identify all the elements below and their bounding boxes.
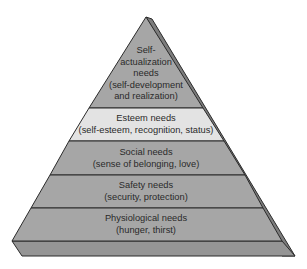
level-social-label: Social needs (sense of belonging, love) <box>66 147 226 170</box>
label-line: (self-development <box>96 80 196 92</box>
label-line: (sense of belonging, love) <box>66 159 226 171</box>
label-line: actualization <box>96 57 196 69</box>
label-line: Safety needs <box>66 180 226 192</box>
label-line: (self-esteem, recognition, status) <box>66 125 226 137</box>
label-line: Esteem needs <box>66 113 226 125</box>
label-line: (hunger, thirst) <box>66 225 226 237</box>
label-line: (security, protection) <box>66 192 226 204</box>
label-line: Self- <box>96 45 196 57</box>
pyramid-base-slab <box>12 241 295 256</box>
label-line: and realization) <box>96 91 196 103</box>
level-physiological-label: Physiological needs (hunger, thirst) <box>66 213 226 236</box>
label-line: needs <box>96 68 196 80</box>
level-safety-label: Safety needs (security, protection) <box>66 180 226 203</box>
level-esteem-label: Esteem needs (self-esteem, recognition, … <box>66 113 226 136</box>
label-line: Social needs <box>66 147 226 159</box>
label-line: Physiological needs <box>66 213 226 225</box>
level-self-actualization-label: Self- actualization needs (self-developm… <box>96 45 196 103</box>
